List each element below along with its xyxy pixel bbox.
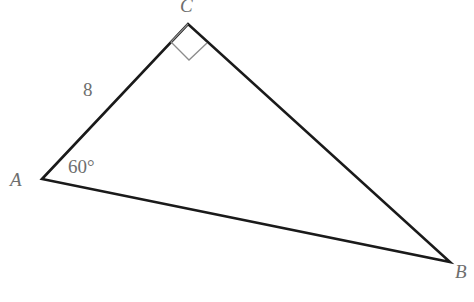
triangle-svg-canvas	[0, 0, 474, 302]
vertex-label-a: A	[10, 170, 22, 189]
vertex-label-b: B	[455, 262, 467, 281]
vertex-label-c: C	[180, 0, 193, 15]
angle-measure-label-a: 60°	[68, 157, 95, 176]
side-length-label-ac: 8	[83, 80, 93, 99]
right-angle-marker-icon	[171, 24, 207, 60]
triangle-outline	[42, 24, 450, 262]
geometry-figure: A B C 8 60°	[0, 0, 474, 302]
